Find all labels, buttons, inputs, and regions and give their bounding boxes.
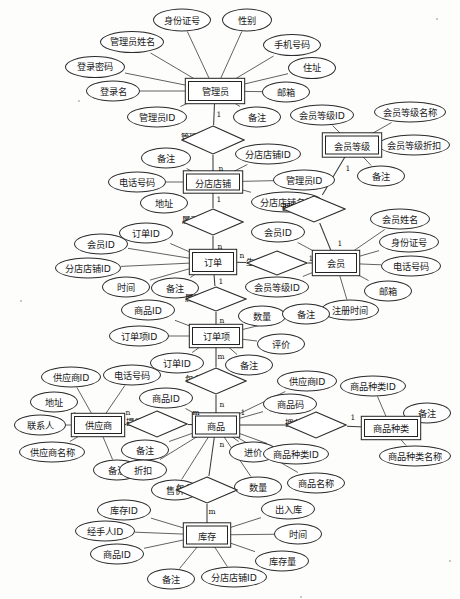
attribute-a8[interactable]: 邮箱 <box>262 82 310 103</box>
scan-artifact <box>300 596 302 598</box>
connector <box>399 437 406 446</box>
attribute-a41[interactable]: 电话号码 <box>103 365 161 386</box>
attribute-a34[interactable]: 订单项ID <box>109 326 169 347</box>
entity-admin[interactable]: 管理员 <box>188 81 242 101</box>
attribute-a4[interactable]: 手机号码 <box>263 34 321 56</box>
connector <box>240 181 273 182</box>
attribute-a62[interactable]: 出入库 <box>261 499 315 520</box>
attribute-a11[interactable]: 会员等级ID <box>290 105 354 126</box>
attribute-a50[interactable]: 折扣 <box>119 460 167 481</box>
attribute-a18[interactable]: 管理员ID <box>273 170 335 191</box>
attribute-a37[interactable]: 评价 <box>257 334 305 355</box>
attribute-a14[interactable]: 备注 <box>357 166 405 187</box>
attribute-a27[interactable]: 会员等级ID <box>245 277 309 298</box>
attribute-a30[interactable]: 电话号码 <box>381 256 441 277</box>
entity-member[interactable]: 会员 <box>315 253 357 273</box>
connector <box>135 532 186 534</box>
attribute-a13[interactable]: 会员等级折扣 <box>378 135 450 156</box>
attribute-a49[interactable]: 备注 <box>121 440 169 461</box>
attribute-a53[interactable]: 商品名称 <box>287 473 345 494</box>
connector <box>209 435 215 477</box>
entity-order[interactable]: 订单 <box>192 252 234 272</box>
attribute-a26[interactable]: 会员ID <box>251 222 305 243</box>
connector <box>170 244 192 253</box>
entity-category[interactable]: 商品种类 <box>364 419 418 437</box>
attribute-a43[interactable]: 联系人 <box>14 415 66 436</box>
relationship-rel-own-cat[interactable]: 拥有 <box>285 411 347 439</box>
attribute-a42[interactable]: 地址 <box>30 392 78 413</box>
relationship-rel-supply[interactable]: 提供 <box>126 410 188 438</box>
attribute-a66[interactable]: 分店店铺ID <box>201 567 267 588</box>
attribute-a54[interactable]: 商品种类ID <box>263 444 329 465</box>
attribute-a36[interactable]: 备注 <box>282 304 330 325</box>
entity-supplier[interactable]: 供应商 <box>74 416 122 434</box>
cardinality-c7: n <box>240 251 245 260</box>
attribute-a17[interactable]: 电话号码 <box>108 172 166 193</box>
connector <box>320 223 332 253</box>
entity-goods[interactable]: 商品 <box>195 416 237 435</box>
attribute-a29[interactable]: 身份证号 <box>379 232 439 253</box>
scan-artifact <box>20 300 22 302</box>
connector <box>180 545 200 569</box>
connector <box>355 273 369 281</box>
er-diagram-canvas: 身份证号性别管理员姓名手机号码住址登录密码登录名邮箱管理员ID备注会员等级ID会… <box>0 0 460 599</box>
relationship-rel-manage[interactable]: 管理 <box>181 125 245 155</box>
attribute-a9[interactable]: 管理员ID <box>127 107 187 128</box>
connector <box>228 534 274 535</box>
attribute-a33[interactable]: 商品ID <box>121 300 175 321</box>
scan-artifact <box>436 18 438 20</box>
attribute-a3[interactable]: 管理员姓名 <box>100 31 164 53</box>
attribute-a32[interactable]: 注册时间 <box>321 300 379 321</box>
attribute-a2[interactable]: 性别 <box>222 9 272 32</box>
cardinality-c5: 1 <box>346 164 351 173</box>
connector <box>187 32 210 82</box>
attribute-a52[interactable]: 数量 <box>234 477 282 498</box>
attribute-a58[interactable]: 商品种类名称 <box>379 446 451 467</box>
relationship-rel-contain-stk[interactable]: 包含 <box>176 476 238 504</box>
cardinality-c14: m <box>192 408 199 417</box>
relationship-rel-generate[interactable]: 生成 <box>246 250 308 276</box>
attribute-a5[interactable]: 住址 <box>288 57 336 79</box>
attribute-a47[interactable]: 供应商ID <box>277 371 337 392</box>
entity-stock[interactable]: 库存 <box>186 526 228 545</box>
relationship-rel-belong-shop[interactable]: 属于 <box>182 208 244 236</box>
attribute-a65[interactable]: 备注 <box>147 569 195 590</box>
connector <box>77 388 93 417</box>
relationship-rel-contain-item[interactable]: 包含 <box>185 367 247 395</box>
connector <box>240 189 251 192</box>
relationship-rel-own-level[interactable]: 拥有 <box>282 195 346 223</box>
attribute-a63[interactable]: 时间 <box>274 524 322 545</box>
connector <box>230 165 248 174</box>
connector <box>180 101 192 107</box>
connector <box>182 435 210 480</box>
attribute-a24[interactable]: 时间 <box>102 277 150 298</box>
entity-level[interactable]: 会员等级 <box>325 136 379 155</box>
connector <box>102 434 113 460</box>
entity-orderitem[interactable]: 订单项 <box>192 327 240 345</box>
connector <box>214 272 215 286</box>
attribute-a64[interactable]: 库存量 <box>255 551 309 572</box>
relationship-rel-belong-order[interactable]: 属于 <box>185 286 247 312</box>
connector <box>70 434 83 442</box>
connector <box>228 542 255 551</box>
attribute-a23[interactable]: 分店店铺ID <box>55 258 121 279</box>
attribute-a22[interactable]: 会员ID <box>74 234 128 255</box>
connector <box>151 518 186 529</box>
attribute-a6[interactable]: 登录密码 <box>65 56 125 78</box>
attribute-a19[interactable]: 地址 <box>140 193 188 214</box>
connector <box>188 191 193 193</box>
entity-branch[interactable]: 分店店铺 <box>186 174 240 191</box>
attribute-a28[interactable]: 会员姓名 <box>370 209 430 230</box>
cardinality-c15: n <box>220 440 225 449</box>
attribute-a56[interactable]: 商品种类ID <box>340 376 406 397</box>
attribute-a12[interactable]: 会员等级名称 <box>374 102 446 123</box>
attribute-a31[interactable]: 邮箱 <box>364 281 412 302</box>
attribute-a60[interactable]: 经手人ID <box>75 521 135 542</box>
attribute-a1[interactable]: 身份证号 <box>153 9 211 32</box>
attribute-a59[interactable]: 库存ID <box>97 500 151 521</box>
attribute-a44[interactable]: 供应商名称 <box>19 442 85 463</box>
attribute-a61[interactable]: 商品ID <box>90 544 144 565</box>
connector <box>228 518 261 529</box>
attribute-a7[interactable]: 登录名 <box>86 81 140 102</box>
attribute-a40[interactable]: 供应商ID <box>41 367 101 388</box>
